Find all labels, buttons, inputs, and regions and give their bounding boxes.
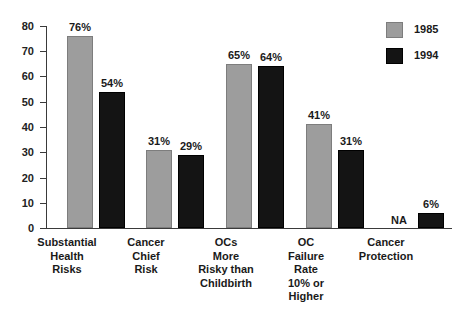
y-axis-label-10: 10 bbox=[4, 198, 34, 209]
bar-value-1994-substantial-health-risks: 54% bbox=[92, 78, 132, 89]
y-axis-label-60: 60 bbox=[4, 71, 34, 82]
legend-swatch-1994-icon bbox=[386, 48, 403, 64]
bar-value-1994-ocs-more-risky-than-childbirth: 64% bbox=[251, 52, 291, 63]
x-axis-line bbox=[46, 228, 452, 229]
legend-label-1985: 1985 bbox=[414, 23, 438, 36]
bar-1994-ocs-more-risky-than-childbirth[interactable] bbox=[258, 66, 284, 228]
category-line: 10% or bbox=[258, 277, 354, 291]
bar-value-1994-cancer-chief-risk: 29% bbox=[171, 141, 211, 152]
category-label-cancer-protection: Cancer Protection bbox=[338, 236, 434, 263]
category-line: Cancer bbox=[338, 236, 434, 250]
bar-1985-ocs-more-risky-than-childbirth[interactable] bbox=[226, 64, 252, 228]
category-line: Higher bbox=[258, 290, 354, 304]
legend-swatch-1985-icon bbox=[386, 22, 403, 38]
bar-1985-oc-failure-rate[interactable] bbox=[306, 124, 332, 228]
y-axis-label-0: 0 bbox=[4, 223, 34, 234]
bar-value-1994-cancer-protection: 6% bbox=[411, 199, 451, 210]
bar-value-1985-substantial-health-risks: 76% bbox=[60, 22, 100, 33]
bar-1985-substantial-health-risks[interactable] bbox=[67, 36, 93, 228]
bar-1994-cancer-protection[interactable] bbox=[418, 213, 444, 228]
y-tick-0 bbox=[40, 228, 47, 229]
y-axis-label-70: 70 bbox=[4, 46, 34, 57]
bar-value-1985-cancer-protection-na: NA bbox=[379, 215, 419, 226]
category-line: Rate bbox=[258, 263, 354, 277]
bar-chart: 80 70 60 50 40 30 20 10 0 76% 54% 31% 29… bbox=[0, 0, 462, 316]
y-axis-label-40: 40 bbox=[4, 122, 34, 133]
y-axis-label-50: 50 bbox=[4, 97, 34, 108]
y-axis-label-80: 80 bbox=[4, 21, 34, 32]
y-axis-label-20: 20 bbox=[4, 173, 34, 184]
bar-1985-cancer-chief-risk[interactable] bbox=[146, 150, 172, 228]
y-axis-label-30: 30 bbox=[4, 147, 34, 158]
legend-label-1994: 1994 bbox=[414, 49, 438, 62]
bar-value-1985-oc-failure-rate: 41% bbox=[299, 110, 339, 121]
bar-1994-oc-failure-rate[interactable] bbox=[338, 150, 364, 228]
bar-1994-cancer-chief-risk[interactable] bbox=[178, 155, 204, 228]
category-line: Protection bbox=[338, 250, 434, 264]
bar-value-1994-oc-failure-rate: 31% bbox=[331, 136, 371, 147]
bar-1994-substantial-health-risks[interactable] bbox=[99, 92, 125, 228]
